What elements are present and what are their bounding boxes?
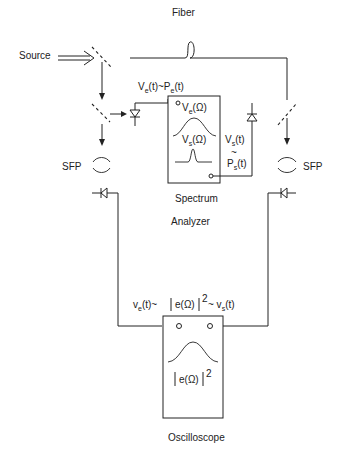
- oscilloscope-input-right[interactable]: [208, 324, 213, 329]
- source-arrow-icon: [58, 51, 94, 65]
- spectrum-label: Spectrum: [175, 193, 218, 204]
- ve-pe-label: Ve(t)~Pe(t): [138, 81, 184, 94]
- arrow-down-right-icon: [284, 118, 290, 145]
- oscilloscope-equation: ve(t)~: [133, 299, 157, 312]
- oscilloscope-box: [163, 316, 223, 418]
- ps-t-label: Ps(t): [227, 158, 247, 171]
- fiber-loop-icon: [185, 42, 287, 100]
- optical-setup-diagram: Source Fiber Ve(t)~Pe(t): [0, 0, 339, 457]
- sfp-left-label: SFP: [62, 161, 82, 172]
- oscilloscope-equation-vs: ~ vs(t): [208, 299, 235, 312]
- sfp-right-icon: [278, 158, 296, 173]
- spectrum-analyzer-input-vs[interactable]: [209, 174, 213, 178]
- sfp-right-label: SFP: [303, 161, 323, 172]
- oscilloscope-label: Oscilloscope: [168, 432, 225, 443]
- spectrum-analyzer-input-ve[interactable]: [176, 101, 180, 105]
- oscilloscope-input-left[interactable]: [177, 324, 182, 329]
- photodiode-sfp-left-icon: [92, 188, 118, 198]
- source-label: Source: [19, 50, 51, 61]
- sfp-left-icon: [93, 158, 110, 173]
- arrow-down-left-1-icon: [99, 62, 105, 100]
- analyzer-label: Analyzer: [171, 216, 211, 227]
- oscilloscope-equation-e: e(Ω): [175, 299, 195, 310]
- arrow-down-left-2-icon: [99, 124, 105, 146]
- tilde-label: ~: [231, 147, 237, 158]
- fiber-label: Fiber: [172, 7, 195, 18]
- oscilloscope-screen-label: e(Ω): [179, 374, 199, 385]
- photodiode-sfp-right-icon: [268, 188, 296, 198]
- arrow-to-photodiode-icon: [110, 111, 127, 117]
- oscilloscope-screen-sup: 2: [206, 368, 212, 379]
- vs-t-label: Vs(t): [225, 134, 245, 147]
- beam-splitter-reference: [92, 104, 110, 122]
